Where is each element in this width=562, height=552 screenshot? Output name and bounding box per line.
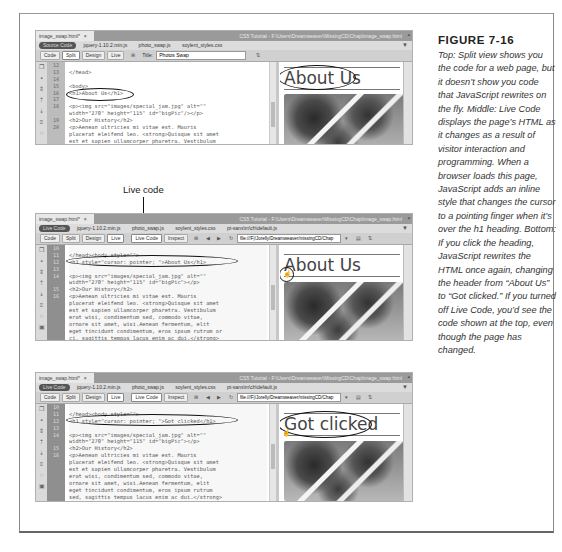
collapse-tag-icon[interactable]: ▪ [36, 256, 47, 267]
filter-icon[interactable]: ▼ [402, 41, 408, 50]
code-scrollbar[interactable] [269, 404, 276, 501]
split-divider[interactable] [276, 62, 279, 144]
close-tab-icon[interactable]: × [84, 375, 87, 381]
expand-all-icon[interactable]: ⇕ [36, 426, 47, 437]
restore-icon[interactable]: ▪ [408, 32, 410, 38]
live-view-button[interactable]: Live [107, 393, 124, 402]
collapse-tag-icon[interactable]: ▪ [36, 73, 47, 84]
live-view-button[interactable]: Live [107, 234, 124, 243]
file-management-icon[interactable]: ⇅ [368, 392, 372, 403]
related-file[interactable]: photo_swap.js [132, 225, 164, 231]
related-file[interactable]: soylent_styles.css [182, 42, 222, 48]
inspect-button[interactable]: Inspect [164, 234, 188, 243]
related-file[interactable]: soylent_styles.css [175, 225, 215, 231]
restore-icon[interactable]: ▪ [408, 374, 410, 380]
preview-scrollbar[interactable] [403, 62, 412, 144]
split-divider[interactable] [276, 245, 279, 340]
document-tab[interactable]: image_swap.html*× [36, 214, 94, 224]
split-view-button[interactable]: Split [62, 51, 80, 60]
code-view-button[interactable]: Code [40, 393, 60, 402]
live-view-button[interactable]: Live [107, 51, 124, 60]
balance-braces-icon[interactable]: ⇣ [36, 448, 47, 459]
source-code-button[interactable]: Source Code [39, 42, 76, 49]
live-code-source-button[interactable]: Live Code [39, 384, 70, 391]
design-view-button[interactable]: Design [82, 234, 106, 243]
related-file[interactable]: photo_swap.js [139, 42, 171, 48]
back-icon[interactable]: ◀ [206, 233, 210, 244]
highlight-invalid-icon[interactable]: ◌ [36, 311, 47, 322]
related-file[interactable]: jquery-1.10.2.min.js [84, 42, 128, 48]
close-tab-icon[interactable]: × [84, 33, 87, 39]
design-view-button[interactable]: Design [82, 393, 106, 402]
address-bar[interactable]: file:///F|/Jorelly/Dreamweaver/missingCD… [237, 393, 341, 402]
highlight-invalid-icon[interactable]: ◌ [36, 128, 47, 139]
highlight-invalid-icon[interactable]: ◌ [36, 470, 47, 481]
visual-aids-icon[interactable]: ▤ [356, 233, 361, 244]
multiscreen-icon[interactable]: ⊞ [194, 392, 198, 403]
preview-scrollbar[interactable] [403, 245, 412, 340]
related-file[interactable]: jquery-1.10.2.min.js [77, 225, 121, 231]
select-parent-icon[interactable]: ⇡ [36, 278, 47, 289]
close-tab-icon[interactable]: × [84, 216, 87, 222]
scrollbar-thumb[interactable] [271, 444, 275, 469]
preview-heading[interactable]: About Us [284, 255, 361, 275]
live-code-source-button[interactable]: Live Code [39, 225, 70, 232]
back-icon[interactable]: ◀ [206, 392, 210, 403]
code-view-button[interactable]: Code [40, 51, 60, 60]
select-parent-icon[interactable]: ⇡ [36, 437, 47, 448]
live-code-button[interactable]: Live Code [131, 234, 162, 243]
apply-comment-icon[interactable]: ▣ [36, 322, 47, 333]
apply-comment-icon[interactable]: ▣ [36, 481, 47, 492]
inspect-button[interactable]: Inspect [164, 393, 188, 402]
restore-icon[interactable]: ▪ [408, 215, 410, 221]
related-file[interactable]: photo_swap.js [132, 384, 164, 390]
balance-braces-icon[interactable]: ⇣ [36, 289, 47, 300]
dropdown-icon[interactable]: ▾ [345, 233, 348, 244]
figure-title: FIGURE 7-16 [438, 34, 556, 46]
code-view-button[interactable]: Code [40, 234, 60, 243]
visual-aids-icon[interactable]: ▤ [356, 392, 361, 403]
refresh-icon[interactable]: ↻ [229, 392, 233, 403]
related-file[interactable]: soylent_styles.css [175, 384, 215, 390]
refresh-icon[interactable]: ↻ [229, 233, 233, 244]
document-tab[interactable]: image_swap.html*× [36, 373, 94, 383]
split-divider[interactable] [276, 404, 279, 501]
code-scrollbar[interactable] [269, 62, 276, 144]
line-numbers-icon[interactable]: ≡ [36, 300, 47, 311]
design-view-button[interactable]: Design [82, 51, 106, 60]
collapse-tag-icon[interactable]: ▪ [36, 415, 47, 426]
related-file[interactable]: pt-sans\m\ch\default.js [227, 384, 277, 390]
multiscreen-icon[interactable]: ⊞ [194, 233, 198, 244]
scrollbar-thumb[interactable] [271, 102, 275, 127]
preview-scrollbar[interactable] [403, 404, 412, 501]
split-view-button[interactable]: Split [62, 234, 80, 243]
forward-icon[interactable]: ▶ [217, 392, 221, 403]
related-file[interactable]: pt-sans\m\ch\default.js [227, 225, 277, 231]
code-scrollbar[interactable] [269, 245, 276, 340]
document-tab[interactable]: image_swap.html*× [36, 31, 94, 41]
expand-all-icon[interactable]: ⇕ [36, 84, 47, 95]
code-editor[interactable]: </head> <body> <h1>About Us</h1> <p><img… [69, 62, 267, 144]
forward-icon[interactable]: ▶ [217, 233, 221, 244]
file-management-icon[interactable]: ⇅ [256, 50, 260, 61]
open-documents-icon[interactable]: ❐ [36, 62, 47, 73]
open-documents-icon[interactable]: ❐ [36, 245, 47, 256]
open-documents-icon[interactable]: ❐ [36, 404, 47, 415]
select-parent-icon[interactable]: ⇡ [36, 95, 47, 106]
multiscreen-icon[interactable]: ⊞ [131, 50, 135, 61]
line-numbers-icon[interactable]: ≡ [36, 117, 47, 128]
filter-icon[interactable]: ▼ [402, 224, 408, 233]
file-management-icon[interactable]: ⇅ [368, 233, 372, 244]
line-numbers-icon[interactable]: ≡ [36, 459, 47, 470]
dropdown-icon[interactable]: ▾ [345, 392, 348, 403]
balance-braces-icon[interactable]: ⇣ [36, 106, 47, 117]
line-number: 11 [47, 411, 65, 418]
expand-all-icon[interactable]: ⇕ [36, 267, 47, 278]
title-input[interactable]: Photos Swap [156, 51, 246, 60]
related-file[interactable]: jquery-1.10.2.min.js [77, 384, 121, 390]
filter-icon[interactable]: ▼ [402, 383, 408, 392]
address-bar[interactable]: file:///F|/Jorelly/Dreamweaver/missingCD… [237, 234, 341, 243]
split-view-button[interactable]: Split [62, 393, 80, 402]
scrollbar-thumb[interactable] [271, 285, 275, 310]
live-code-button[interactable]: Live Code [131, 393, 162, 402]
